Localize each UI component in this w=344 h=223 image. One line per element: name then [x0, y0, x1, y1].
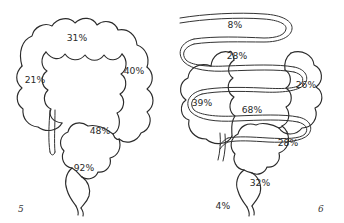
figure-6: 8% 28% 39% 26% 68% 28% 32% 4% 6 [172, 0, 344, 223]
label-mid-small-bowel: 28% [227, 50, 248, 61]
label-descending-colon: 40% [124, 65, 145, 76]
label-descending-colon-6: 26% [296, 79, 317, 90]
label-ascending-colon-6: 39% [192, 97, 213, 108]
figure-number-6: 6 [318, 204, 324, 214]
label-rectum: 92% [74, 162, 95, 173]
label-transverse-colon: 31% [67, 32, 88, 43]
label-ascending-colon: 21% [25, 74, 46, 85]
diagram-canvas: 31% 21% 40% 48% 92% 5 [0, 0, 344, 223]
label-anus: 4% [216, 200, 231, 211]
figure-5: 31% 21% 40% 48% 92% 5 [0, 0, 172, 223]
figure-number-5: 5 [18, 204, 24, 214]
label-rectum-6: 32% [250, 177, 271, 188]
label-proximal-small-bowel: 8% [228, 19, 243, 30]
label-terminal-ileum: 68% [242, 104, 263, 115]
label-sigmoid-colon-6: 28% [278, 137, 299, 148]
label-sigmoid-colon: 48% [90, 125, 111, 136]
